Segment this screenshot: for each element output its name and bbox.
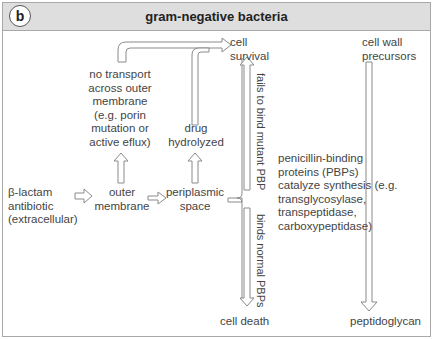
periplasmic-line-2: space bbox=[164, 200, 226, 214]
label-fails-to-bind: fails to bind mutant PBP bbox=[255, 73, 267, 190]
node-cell-death: cell death bbox=[220, 315, 269, 329]
node-drug-hydrolyzed: drug hydrolyzed bbox=[165, 122, 227, 149]
node-peptidoglycan: peptidoglycan bbox=[350, 315, 421, 329]
antibiotic-line-3: (extracellular) bbox=[8, 213, 78, 227]
antibiotic-line-1: β-lactam bbox=[8, 186, 78, 200]
arrow-outer-to-no-transport bbox=[114, 153, 128, 183]
pbps-line-4: transglycosylase, bbox=[278, 193, 398, 207]
no-transport-line-2: across outer bbox=[84, 82, 156, 96]
node-antibiotic: β-lactam antibiotic (extracellular) bbox=[8, 186, 78, 227]
precursors-line-2: precursors bbox=[362, 50, 416, 64]
no-transport-line-5: mutation or bbox=[84, 122, 156, 136]
no-transport-line-6: active eflux) bbox=[84, 136, 156, 150]
pbps-line-1: penicillin-binding bbox=[278, 152, 398, 166]
pbps-line-3: catalyze synthesis (e.g. bbox=[278, 179, 398, 193]
arrow-periplasmic-to-hydrolyzed bbox=[188, 153, 202, 183]
node-cell-wall-precursors: cell wall precursors bbox=[362, 36, 416, 63]
node-pbps: penicillin-binding proteins (PBPs) catal… bbox=[278, 152, 398, 233]
pbps-line-2: proteins (PBPs) bbox=[278, 166, 398, 180]
survival-line-1: cell bbox=[230, 36, 269, 50]
no-transport-line-3: membrane bbox=[84, 95, 156, 109]
outer-membrane-line-1: outer bbox=[94, 186, 150, 200]
arrow-no-transport-to-survival bbox=[118, 38, 231, 62]
no-transport-line-4: (e.g. porin bbox=[84, 109, 156, 123]
hydrolyzed-line-1: drug bbox=[165, 122, 227, 136]
precursors-line-1: cell wall bbox=[362, 36, 416, 50]
no-transport-line-1: no transport bbox=[84, 68, 156, 82]
antibiotic-line-2: antibiotic bbox=[8, 200, 78, 214]
decision-bracket bbox=[237, 58, 242, 298]
node-cell-survival: cell survival bbox=[230, 36, 269, 63]
node-outer-membrane: outer membrane bbox=[94, 186, 150, 213]
node-no-transport: no transport across outer membrane (e.g.… bbox=[84, 68, 156, 149]
pbps-line-5: transpeptidase, bbox=[278, 206, 398, 220]
node-periplasmic-space: periplasmic space bbox=[164, 186, 226, 213]
periplasmic-line-1: periplasmic bbox=[164, 186, 226, 200]
outer-membrane-line-2: membrane bbox=[94, 200, 150, 214]
arrow-hydrolyzed-to-survival bbox=[192, 48, 209, 125]
label-binds-normal: binds normal PBPs bbox=[255, 214, 267, 308]
pbps-line-6: carboxypeptidase) bbox=[278, 220, 398, 234]
hydrolyzed-line-2: hydrolyzed bbox=[165, 136, 227, 150]
survival-line-2: survival bbox=[230, 50, 269, 64]
